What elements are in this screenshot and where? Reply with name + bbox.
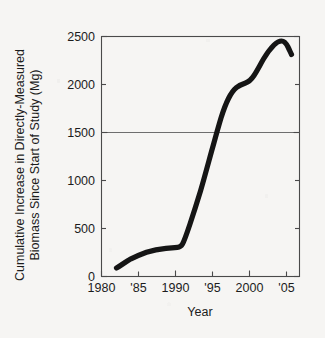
- y-tick-label: 2000: [67, 78, 95, 92]
- x-tick-label: 1980: [88, 281, 116, 295]
- y-tick-marks-left: [102, 37, 108, 277]
- x-tick-label: 2000: [236, 281, 264, 295]
- x-tick-label: '05: [278, 281, 294, 295]
- biomass-data-line: [117, 41, 292, 268]
- figure-container: Cumulative Increase in Directly-Measured…: [0, 0, 325, 338]
- x-tick-label: 1990: [162, 281, 190, 295]
- x-tick-marks: [102, 271, 287, 277]
- line-chart: Cumulative Increase in Directly-Measured…: [0, 0, 325, 338]
- y-axis-title-line2: Biomass Since Start of Study (Mg): [28, 69, 42, 260]
- x-axis-title: Year: [187, 305, 212, 319]
- y-tick-label: 1000: [67, 174, 95, 188]
- y-tick-label: 500: [74, 222, 95, 236]
- plot-frame: [102, 37, 300, 277]
- y-tick-label: 1500: [67, 126, 95, 140]
- x-tick-labels: 1980 '85 1990 '95 2000 '05: [88, 281, 295, 295]
- x-tick-label: '95: [204, 281, 220, 295]
- y-tick-label: 2500: [67, 30, 95, 44]
- x-tick-label: '85: [130, 281, 146, 295]
- y-axis-title-line1: Cumulative Increase in Directly-Measured: [13, 49, 27, 281]
- y-tick-marks-right: [294, 37, 300, 277]
- y-tick-labels: 2500 2000 1500 1000 500 0: [67, 30, 95, 284]
- y-axis-title: Cumulative Increase in Directly-Measured…: [13, 49, 42, 281]
